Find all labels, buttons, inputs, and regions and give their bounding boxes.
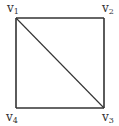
vertex-label-v1-base: v	[7, 1, 14, 15]
vertex-label-v3-base: v	[102, 110, 109, 124]
vertex-label-v2: v2	[102, 2, 114, 16]
vertex-label-v1: v1	[7, 2, 19, 16]
edge-v1-v3-diagonal	[16, 18, 104, 108]
graph-canvas	[0, 0, 119, 126]
vertex-label-v4: v4	[6, 111, 18, 125]
vertex-label-v1-sub: 1	[14, 7, 19, 16]
vertex-label-v2-base: v	[102, 1, 109, 15]
vertex-label-v4-base: v	[6, 110, 13, 124]
graph-diagram: v1 v2 v4 v3	[0, 0, 119, 126]
vertex-label-v2-sub: 2	[109, 7, 114, 16]
vertex-label-v3: v3	[102, 111, 114, 125]
vertex-label-v4-sub: 4	[13, 116, 18, 125]
vertex-label-v3-sub: 3	[109, 116, 114, 125]
